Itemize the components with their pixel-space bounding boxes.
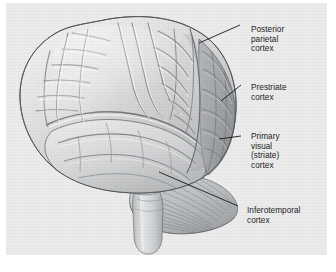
label-prestriate-cortex: Prestriate cortex xyxy=(251,83,287,102)
label-line: Posterior xyxy=(251,25,284,35)
label-line: cortex xyxy=(251,161,280,171)
label-line: cortex xyxy=(251,93,287,103)
label-line: Inferotemporal xyxy=(247,206,301,216)
label-line: visual xyxy=(251,142,280,152)
label-line: cortex xyxy=(251,44,284,54)
cerebral-cortex xyxy=(20,17,236,195)
label-primary-visual-striate-cortex: Primary visual (striate) cortex xyxy=(251,132,280,170)
figure-panel: Posterior parietal cortex Prestriate cor… xyxy=(6,3,327,255)
label-inferotemporal-cortex: Inferotemporal cortex xyxy=(247,206,301,225)
brain-anatomy-figure: Posterior parietal cortex Prestriate cor… xyxy=(0,0,336,272)
label-line: cortex xyxy=(247,216,301,226)
label-line: parietal xyxy=(251,35,284,45)
label-posterior-parietal-cortex: Posterior parietal cortex xyxy=(251,25,284,54)
leader-line-posterior-parietal-cortex xyxy=(199,25,240,43)
label-line: (striate) xyxy=(251,151,280,161)
label-line: Prestriate xyxy=(251,83,287,93)
label-line: Primary xyxy=(251,132,280,142)
